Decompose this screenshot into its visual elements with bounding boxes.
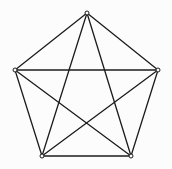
graph-vertex-bottom-left bbox=[40, 154, 44, 158]
graph-vertex-left bbox=[13, 68, 17, 72]
graph-vertex-top bbox=[85, 11, 89, 15]
figure-background bbox=[0, 0, 172, 169]
graph-vertex-right bbox=[156, 68, 160, 72]
graph-figure bbox=[0, 0, 172, 169]
graph-vertex-bottom-right bbox=[129, 154, 133, 158]
figure-container bbox=[0, 0, 172, 169]
